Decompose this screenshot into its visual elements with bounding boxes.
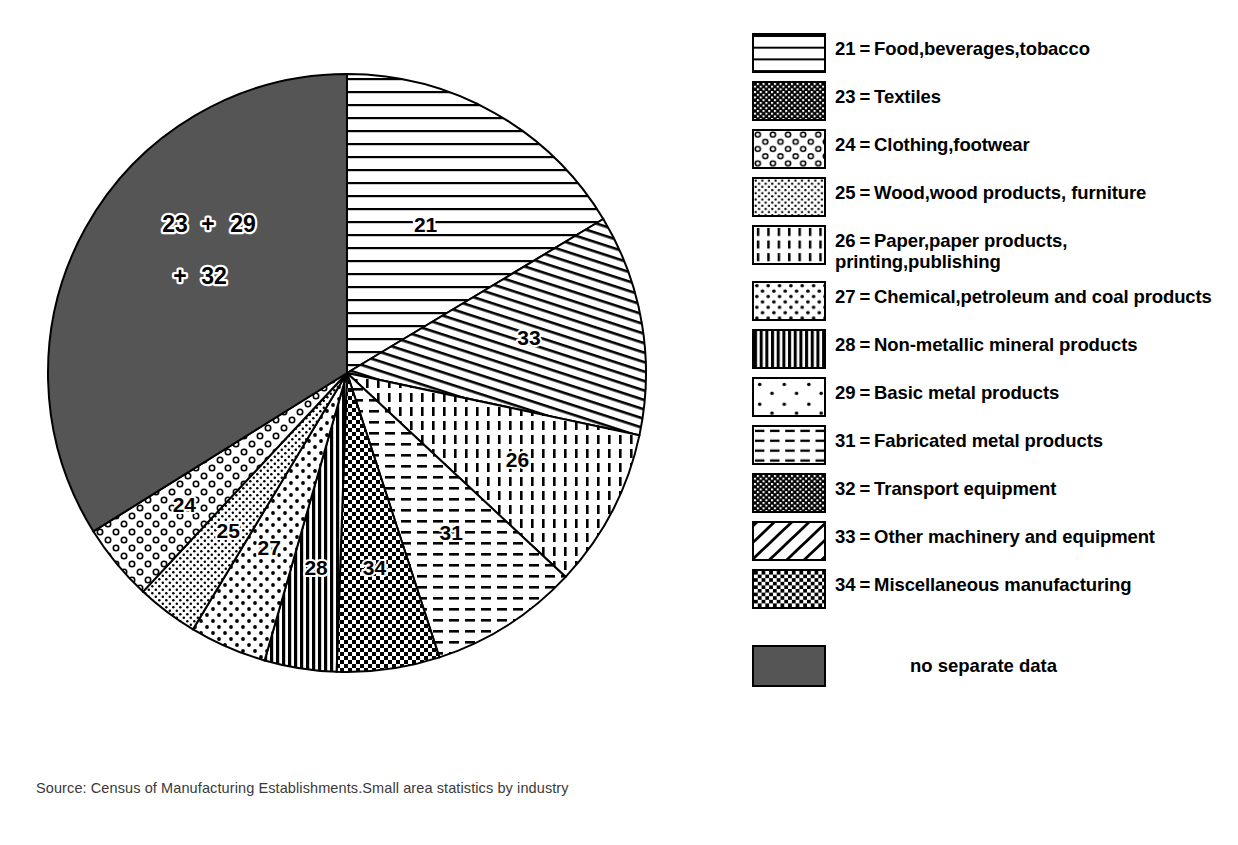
pie-slice-label-34: 34 <box>363 556 387 579</box>
legend: 21=Food,beverages,tobacco23=Textiles24=C… <box>752 32 1232 687</box>
pie-chart-svg: 21332631342827252423+29+32 <box>0 0 700 760</box>
legend-code-27: 27 <box>835 286 855 307</box>
legend-description-27: Chemical,petroleum and coal products <box>874 286 1212 307</box>
pie-slice-label-plus-1: + <box>201 211 214 237</box>
pie-slice-label-25: 25 <box>217 519 241 542</box>
legend-equals-sign: = <box>855 286 874 307</box>
pie-slice-label-31: 31 <box>440 521 464 544</box>
legend-row-27[interactable]: 27=Chemical,petroleum and coal products <box>752 280 1232 321</box>
legend-code-31: 31 <box>835 430 855 451</box>
legend-description-24: Clothing,footwear <box>874 134 1030 155</box>
legend-swatch-icon <box>752 329 826 369</box>
legend-label-no-separate-data: no separate data <box>910 655 1057 677</box>
legend-equals-sign: = <box>855 334 874 355</box>
legend-code-24: 24 <box>835 134 855 155</box>
legend-row-26[interactable]: 26=Paper,paper products, printing,publis… <box>752 224 1232 273</box>
legend-row-33[interactable]: 33=Other machinery and equipment <box>752 520 1232 561</box>
legend-swatch-icon <box>752 81 826 121</box>
pie-slice-label-28: 28 <box>304 556 328 579</box>
legend-description-25: Wood,wood products, furniture <box>874 182 1146 203</box>
legend-equals-sign: = <box>855 430 874 451</box>
pie-chart: 21332631342827252423+29+32 <box>0 0 700 760</box>
legend-swatch-icon <box>752 377 826 417</box>
legend-equals-sign: = <box>855 38 874 59</box>
pie-slice-label-26: 26 <box>506 448 529 471</box>
legend-swatch-icon <box>752 569 826 609</box>
legend-row-21[interactable]: 21=Food,beverages,tobacco <box>752 32 1232 73</box>
legend-row-29[interactable]: 29=Basic metal products <box>752 376 1232 417</box>
source-note: Source: Census of Manufacturing Establis… <box>36 780 569 796</box>
legend-row-23[interactable]: 23=Textiles <box>752 80 1232 121</box>
legend-row-25[interactable]: 25=Wood,wood products, furniture <box>752 176 1232 217</box>
legend-description-29: Basic metal products <box>874 382 1059 403</box>
legend-code-34: 34 <box>835 574 855 595</box>
legend-label-32: 32=Transport equipment <box>835 472 1056 499</box>
legend-label-26: 26=Paper,paper products, printing,publis… <box>835 224 1232 273</box>
legend-swatch-icon <box>752 129 826 169</box>
legend-row-no-separate-data: no separate data <box>752 645 1232 687</box>
legend-swatch-icon <box>752 521 826 561</box>
legend-code-33: 33 <box>835 526 855 547</box>
legend-equals-sign: = <box>855 526 874 547</box>
legend-description-21: Food,beverages,tobacco <box>874 38 1090 59</box>
legend-label-29: 29=Basic metal products <box>835 376 1059 403</box>
pie-slice-label-24: 24 <box>173 493 197 516</box>
legend-code-26: 26 <box>835 230 855 251</box>
pie-slice-label-33: 33 <box>517 326 540 349</box>
legend-label-23: 23=Textiles <box>835 80 941 107</box>
legend-row-32[interactable]: 32=Transport equipment <box>752 472 1232 513</box>
chart-canvas: 21332631342827252423+29+32 Source: Censu… <box>0 0 1238 845</box>
legend-label-24: 24=Clothing,footwear <box>835 128 1030 155</box>
legend-equals-sign: = <box>855 86 874 107</box>
legend-row-24[interactable]: 24=Clothing,footwear <box>752 128 1232 169</box>
legend-description-34: Miscellaneous manufacturing <box>874 574 1131 595</box>
pie-slice-label-plus-2: + <box>173 263 186 289</box>
legend-label-34: 34=Miscellaneous manufacturing <box>835 568 1132 595</box>
legend-equals-sign: = <box>855 134 874 155</box>
legend-label-27: 27=Chemical,petroleum and coal products <box>835 280 1212 307</box>
legend-swatch-icon <box>752 281 826 321</box>
legend-equals-sign: = <box>855 478 874 499</box>
legend-code-25: 25 <box>835 182 855 203</box>
legend-row-28[interactable]: 28=Non-metallic mineral products <box>752 328 1232 369</box>
legend-swatch-icon <box>752 225 826 265</box>
legend-code-29: 29 <box>835 382 855 403</box>
legend-label-33: 33=Other machinery and equipment <box>835 520 1155 547</box>
legend-description-33: Other machinery and equipment <box>874 526 1155 547</box>
legend-description-31: Fabricated metal products <box>874 430 1103 451</box>
legend-swatch-icon <box>752 473 826 513</box>
legend-label-21: 21=Food,beverages,tobacco <box>835 32 1090 59</box>
legend-row-31[interactable]: 31=Fabricated metal products <box>752 424 1232 465</box>
legend-label-31: 31=Fabricated metal products <box>835 424 1103 451</box>
pie-slice-label-21: 21 <box>414 213 438 236</box>
legend-equals-sign: = <box>855 382 874 403</box>
pie-slice-label-29: 29 <box>230 211 256 237</box>
legend-code-28: 28 <box>835 334 855 355</box>
legend-swatch-icon <box>752 177 826 217</box>
pie-slice-label-23: 23 <box>162 211 188 237</box>
legend-equals-sign: = <box>855 230 874 251</box>
legend-label-28: 28=Non-metallic mineral products <box>835 328 1137 355</box>
legend-description-28: Non-metallic mineral products <box>874 334 1137 355</box>
pie-slice-label-27: 27 <box>257 536 280 559</box>
legend-label-25: 25=Wood,wood products, furniture <box>835 176 1146 203</box>
legend-code-23: 23 <box>835 86 855 107</box>
legend-code-21: 21 <box>835 38 855 59</box>
pie-slice-label-32: 32 <box>201 263 227 289</box>
legend-description-32: Transport equipment <box>874 478 1056 499</box>
legend-row-34[interactable]: 34=Miscellaneous manufacturing <box>752 568 1232 609</box>
pie-slice-group <box>48 74 646 672</box>
legend-swatch-icon <box>752 33 826 73</box>
legend-code-32: 32 <box>835 478 855 499</box>
legend-swatch-icon <box>752 645 826 687</box>
legend-swatch-icon <box>752 425 826 465</box>
legend-description-23: Textiles <box>874 86 941 107</box>
legend-equals-sign: = <box>855 182 874 203</box>
legend-equals-sign: = <box>855 574 874 595</box>
